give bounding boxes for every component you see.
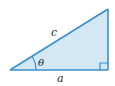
angle-label: θ bbox=[38, 57, 44, 68]
hypotenuse-label: c bbox=[51, 26, 57, 39]
right-triangle-diagram: c θ a bbox=[0, 0, 115, 86]
adjacent-label: a bbox=[57, 72, 64, 85]
